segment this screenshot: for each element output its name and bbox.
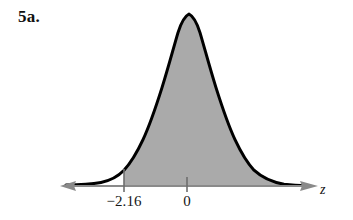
axis-variable-label-z: z [320,183,325,197]
normal-distribution-plot [0,0,353,220]
tick-label-zero: 0 [183,194,191,209]
axis-arrow-right [300,181,318,191]
tick-label-minus-2-16: −2.16 [106,194,141,209]
shaded-area-region [62,14,310,186]
axis-arrow-left [60,181,76,191]
figure-container: 5a. −2.16 0 z [0,0,353,220]
